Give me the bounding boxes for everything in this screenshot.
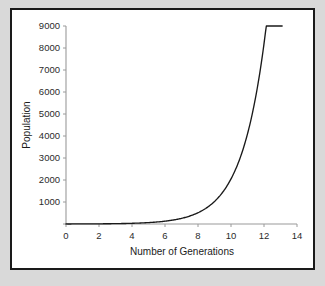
y-tick-label: 4000	[39, 130, 60, 141]
y-tick-label: 3000	[39, 152, 60, 163]
y-tick-label: 6000	[39, 86, 60, 97]
population-growth-chart: 100020003000400050006000700080009000 024…	[12, 10, 313, 268]
x-tick-label: 2	[96, 230, 101, 241]
y-axis-tick-labels: 100020003000400050006000700080009000	[39, 20, 60, 207]
y-axis-label: Population	[21, 101, 32, 148]
x-tick-label: 6	[162, 230, 167, 241]
population-curve	[66, 26, 282, 224]
y-tick-label: 2000	[39, 174, 60, 185]
x-tick-label: 4	[129, 230, 134, 241]
x-axis-tick-labels: 02468101214	[63, 230, 302, 241]
x-tick-label: 10	[226, 230, 237, 241]
x-tick-label: 12	[259, 230, 270, 241]
y-tick-label: 7000	[39, 64, 60, 75]
x-tick-label: 8	[195, 230, 200, 241]
x-tick-label: 14	[292, 230, 303, 241]
y-tick-label: 8000	[39, 42, 60, 53]
x-axis-label: Number of Generations	[130, 246, 234, 257]
y-tick-label: 5000	[39, 108, 60, 119]
y-tick-label: 1000	[39, 196, 60, 207]
chart-frame: 100020003000400050006000700080009000 024…	[10, 8, 315, 270]
y-tick-label: 9000	[39, 20, 60, 31]
x-tick-label: 0	[63, 230, 68, 241]
